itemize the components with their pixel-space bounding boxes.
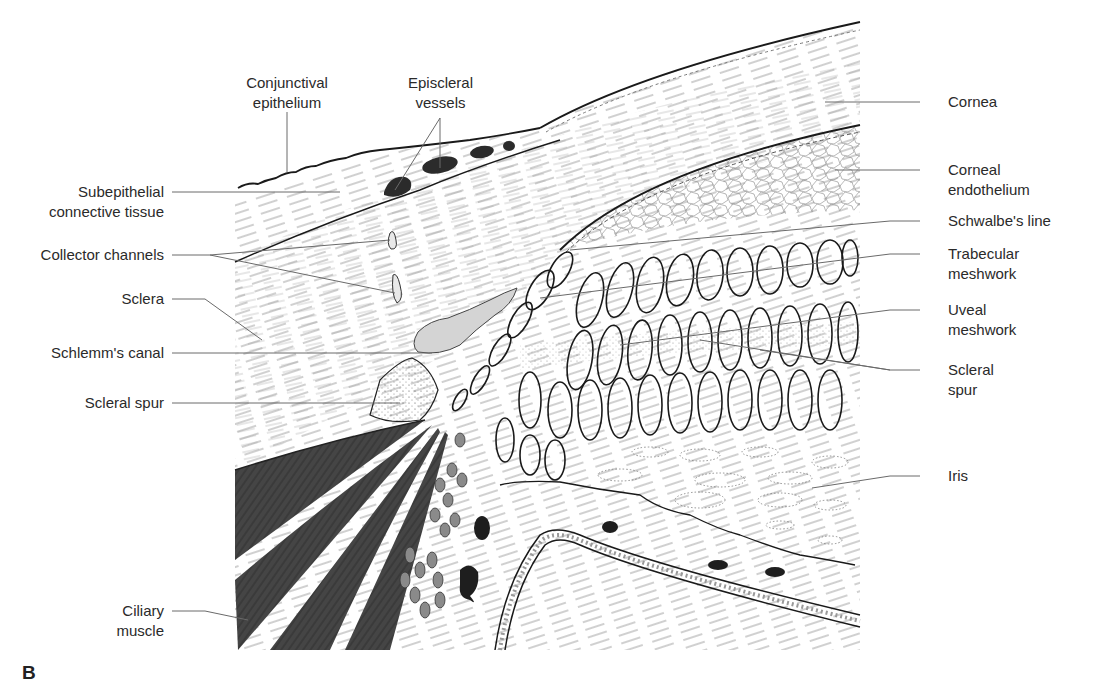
label-line: meshwork — [948, 264, 1019, 284]
label-line: Iris — [948, 466, 968, 486]
label-line: Ciliary — [116, 601, 164, 621]
label-schwalbes-line: Schwalbe's line — [948, 211, 1051, 231]
label-line: vessels — [393, 93, 488, 113]
label-line: Schlemm's canal — [51, 343, 164, 363]
label-iris: Iris — [948, 466, 968, 486]
label-line: Episcleral — [393, 73, 488, 93]
label-episcleral-vessels: Episcleral vessels — [393, 73, 488, 113]
label-line: Subepithelial — [49, 182, 164, 202]
label-line: Sclera — [121, 289, 164, 309]
label-scleral-spur-left: Scleral spur — [85, 393, 164, 413]
label-schlemms-canal: Schlemm's canal — [51, 343, 164, 363]
label-line: Cornea — [948, 92, 997, 112]
label-corneal-endothelium: Corneal endothelium — [948, 160, 1030, 200]
label-line: epithelium — [232, 93, 342, 113]
label-line: muscle — [116, 621, 164, 641]
label-line: Corneal — [948, 160, 1030, 180]
label-line: spur — [948, 380, 994, 400]
label-scleral-spur-right: Scleral spur — [948, 360, 994, 400]
label-ciliary-muscle: Ciliary muscle — [116, 601, 164, 641]
label-line: meshwork — [948, 320, 1016, 340]
label-line: endothelium — [948, 180, 1030, 200]
label-line: Trabecular — [948, 244, 1019, 264]
label-uveal-meshwork: Uveal meshwork — [948, 300, 1016, 340]
label-line: Schwalbe's line — [948, 211, 1051, 231]
label-collector-channels: Collector channels — [41, 245, 164, 265]
label-line: Uveal — [948, 300, 1016, 320]
label-line: Conjunctival — [232, 73, 342, 93]
label-line: Scleral spur — [85, 393, 164, 413]
label-line: Scleral — [948, 360, 994, 380]
label-conjunctival-epithelium: Conjunctival epithelium — [232, 73, 342, 113]
label-line: connective tissue — [49, 202, 164, 222]
label-subepithelial-connective-tissue: Subepithelial connective tissue — [49, 182, 164, 222]
label-cornea: Cornea — [948, 92, 997, 112]
label-trabecular-meshwork: Trabecular meshwork — [948, 244, 1019, 284]
panel-letter: B — [22, 662, 36, 684]
label-line: Collector channels — [41, 245, 164, 265]
label-sclera: Sclera — [121, 289, 164, 309]
